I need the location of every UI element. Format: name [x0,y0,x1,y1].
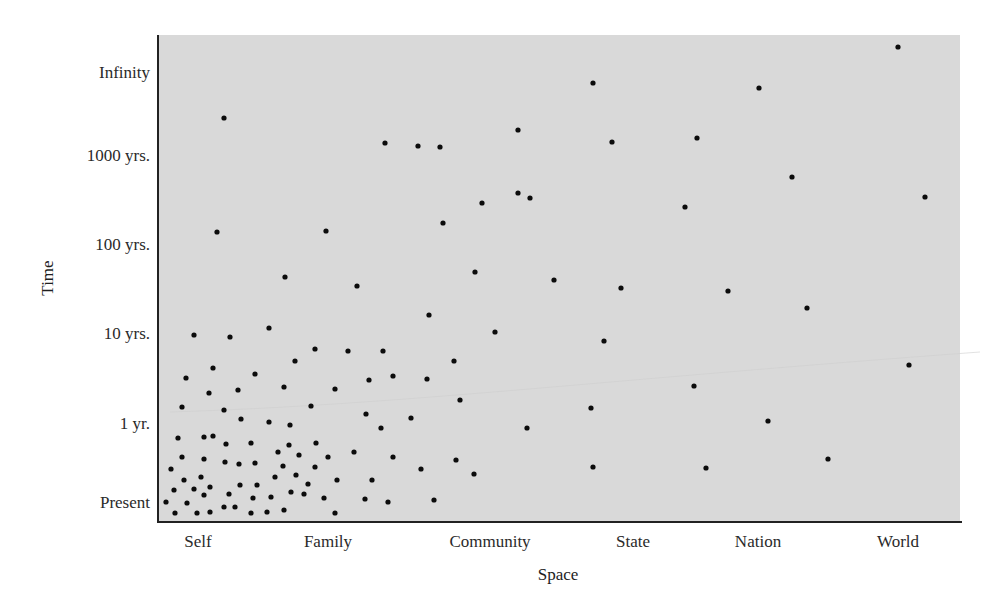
data-point [424,376,429,381]
data-point [252,371,257,376]
data-point [922,194,927,199]
data-point [184,500,189,505]
data-point [332,510,337,515]
data-point [171,487,176,492]
data-point [275,449,280,454]
data-point [369,477,374,482]
data-point [248,440,253,445]
data-point [281,384,286,389]
y-tick-label: Infinity [99,63,150,82]
data-point [366,377,371,382]
data-point [471,471,476,476]
data-point [440,220,445,225]
x-tick-label: State [616,532,650,551]
data-point [492,329,497,334]
data-point [363,411,368,416]
data-point [312,346,317,351]
data-point [201,456,206,461]
y-tick-labels: Present1 yr.10 yrs.100 yrs.1000 yrs.Infi… [87,63,151,512]
data-point [207,484,212,489]
data-point [201,492,206,497]
data-point [232,504,237,509]
data-point [168,466,173,471]
data-point [179,404,184,409]
data-point [825,456,830,461]
data-point [296,452,301,457]
data-point [418,466,423,471]
data-point [223,441,228,446]
data-point [323,228,328,233]
data-point [292,358,297,363]
data-point [609,139,614,144]
data-point [789,174,794,179]
data-point [183,375,188,380]
data-point [221,504,226,509]
data-point [286,442,291,447]
data-point [431,497,436,502]
data-point [334,477,339,482]
data-point [201,434,206,439]
data-point [588,405,593,410]
data-point [210,433,215,438]
data-point [325,454,330,459]
data-point [281,507,286,512]
data-point [515,127,520,132]
data-point [272,474,277,479]
data-point [756,85,761,90]
data-point [618,285,623,290]
data-point [266,325,271,330]
data-point [179,454,184,459]
y-tick-label: 10 yrs. [104,324,150,343]
data-point [266,419,271,424]
data-point [551,277,556,282]
data-point [227,334,232,339]
data-point [191,332,196,337]
x-tick-label: Self [184,532,212,551]
data-point [264,509,269,514]
data-point [385,499,390,504]
data-point [906,362,911,367]
data-point [288,489,293,494]
x-tick-label: Nation [735,532,782,551]
data-point [222,459,227,464]
data-point [221,407,226,412]
data-point [301,491,306,496]
data-point [515,190,520,195]
scatter-chart: Present1 yr.10 yrs.100 yrs.1000 yrs.Infi… [0,0,990,609]
data-point [437,144,442,149]
y-tick-label: 1 yr. [120,414,150,433]
data-point [601,338,606,343]
data-point [703,465,708,470]
data-point [191,486,196,491]
data-point [895,44,900,49]
data-point [207,509,212,514]
data-point [362,496,367,501]
data-point [524,425,529,430]
data-point [390,454,395,459]
data-point [390,373,395,378]
data-point [380,348,385,353]
data-point [280,463,285,468]
data-point [590,80,595,85]
data-point [236,461,241,466]
data-point [312,464,317,469]
data-point [408,415,413,420]
x-axis-title: Space [538,565,579,584]
data-point [172,510,177,515]
plot-area [158,35,960,522]
data-point [590,464,595,469]
x-tick-label: Community [449,532,531,551]
data-point [206,390,211,395]
data-point [765,418,770,423]
data-point [181,477,186,482]
data-point [804,305,809,310]
data-point [308,403,313,408]
data-point [175,435,180,440]
x-tick-label: World [877,532,920,551]
data-point [237,482,242,487]
data-point [287,422,292,427]
data-point [527,195,532,200]
data-point [378,425,383,430]
data-point [163,499,168,504]
data-point [345,348,350,353]
